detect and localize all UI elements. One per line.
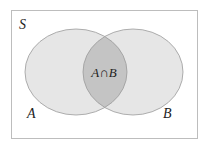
venn-diagram: S A B A∩B bbox=[0, 0, 208, 147]
set-b-label: B bbox=[163, 106, 172, 121]
intersection-label: A∩B bbox=[90, 65, 116, 80]
universe-label: S bbox=[19, 17, 26, 32]
set-a-label: A bbox=[26, 106, 36, 121]
